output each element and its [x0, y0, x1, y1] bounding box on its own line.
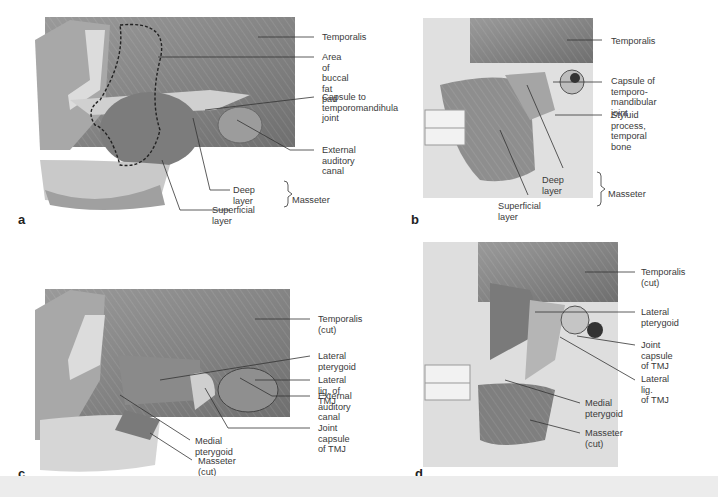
label-joint-capsule-tmj: Joint capsule of TMJ: [641, 340, 673, 372]
panel-c-illustration: [35, 289, 290, 472]
label-external-auditory-canal: External auditory canal: [322, 145, 356, 177]
label-masseter: Masseter: [608, 189, 646, 200]
label-temporalis: Temporalis: [322, 32, 366, 43]
caption-bar: [0, 476, 718, 497]
label-deep-layer: Deep layer: [542, 175, 564, 196]
label-medial-pterygoid: Medial pterygoid: [585, 398, 623, 419]
label-external-auditory-canal: External auditory canal: [318, 391, 352, 423]
label-deep-layer: Deep layer: [233, 185, 255, 206]
panel-a-illustration: [35, 17, 295, 210]
label-lateral-lig-tmj: Lateral lig. of TMJ: [641, 374, 669, 406]
panel-b-illustration: [423, 18, 593, 198]
label-styloid-process: Styluid process, temporal bone: [611, 110, 647, 152]
label-joint-capsule-tmj: Joint capsule of TMJ: [318, 423, 350, 455]
panel-letter: a: [18, 212, 25, 227]
label-capsule-tmj: Capsule to temporomandihula joint: [322, 92, 398, 124]
label-medial-pterygoid: Medial pterygoid: [195, 436, 233, 457]
label-lateral-pterygoid: Lateral pterygoid: [641, 307, 679, 328]
label-masseter-cut: Masseter (cut): [198, 456, 236, 477]
label-masseter: Masseter: [292, 195, 330, 206]
label-temporalis-cut: Temporalis (cut): [318, 314, 362, 335]
panel-letter: b: [411, 212, 419, 227]
label-lateral-pterygoid: Lateral pterygoid: [318, 351, 356, 372]
label-superficial-layer: Superficial layer: [498, 201, 541, 222]
label-temporalis: Temporalis: [611, 36, 655, 47]
label-temporalis-cut: Temporalis (cut): [641, 267, 685, 288]
illustration-layer: [0, 0, 718, 497]
label-superficial-layer: Superficial layer: [212, 205, 255, 226]
label-masseter-cut: Masseter (cut): [585, 428, 623, 449]
